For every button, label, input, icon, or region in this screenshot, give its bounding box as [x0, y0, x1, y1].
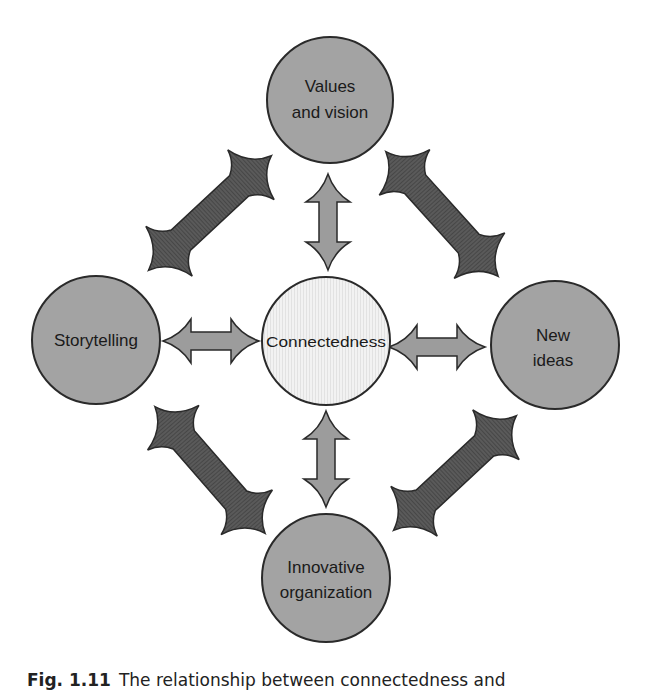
bold-arrow-left-bottom: [129, 384, 291, 555]
node-label-line: ideas: [533, 351, 574, 370]
node-label-line: New: [536, 326, 571, 345]
bold-arrow-left-top: [125, 131, 294, 295]
node-values-and-vision: Values and vision: [267, 37, 393, 163]
arrow-center-bottom: [304, 411, 348, 507]
node-connectedness: Connectedness: [262, 277, 390, 405]
figure-number: Fig. 1.11: [27, 670, 111, 690]
node-label-line: Values: [305, 77, 356, 96]
arrow-center-right: [389, 325, 485, 369]
node-label-line: and vision: [292, 103, 369, 122]
node-label-line: organization: [280, 583, 373, 602]
node-new-ideas: New ideas: [491, 281, 619, 409]
arrow-center-top: [306, 174, 350, 270]
figure-caption: Fig. 1.11The relationship between connec…: [27, 670, 506, 690]
node-label-line: Innovative: [287, 558, 365, 577]
bold-arrow-right-bottom: [370, 391, 539, 555]
node-innovative-organization: Innovative organization: [262, 514, 390, 642]
node-storytelling: Storytelling: [32, 276, 160, 404]
bold-arrow-top-right: [361, 129, 524, 299]
figure-caption-text: The relationship between connectedness a…: [119, 670, 506, 690]
arrow-center-left: [163, 319, 259, 363]
node-label-line: Storytelling: [54, 331, 138, 350]
center-label: Connectedness: [266, 333, 386, 350]
